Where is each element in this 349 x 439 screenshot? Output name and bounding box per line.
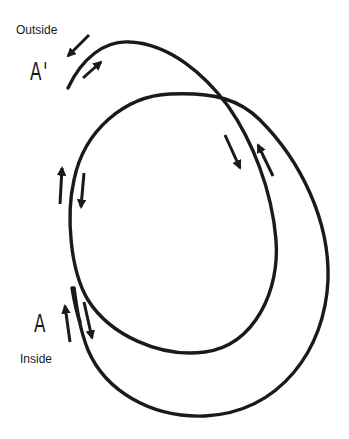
arrow-down-left-icon: [68, 35, 89, 56]
a-label: A: [34, 310, 47, 338]
a-prime-label: A': [30, 58, 49, 86]
arrow-down-icon: [84, 302, 92, 338]
inside-label: Inside: [20, 352, 52, 366]
arrow-down-icon: [225, 135, 240, 168]
outside-label: Outside: [16, 23, 57, 37]
arrow-up-right-icon: [83, 62, 101, 78]
spiral-curve: [68, 42, 328, 416]
arrow-up-icon: [60, 168, 62, 204]
arrow-up-icon: [65, 306, 70, 342]
arrow-down-icon: [81, 173, 84, 207]
spiral-diagram: Outside A' A Inside: [0, 0, 349, 439]
